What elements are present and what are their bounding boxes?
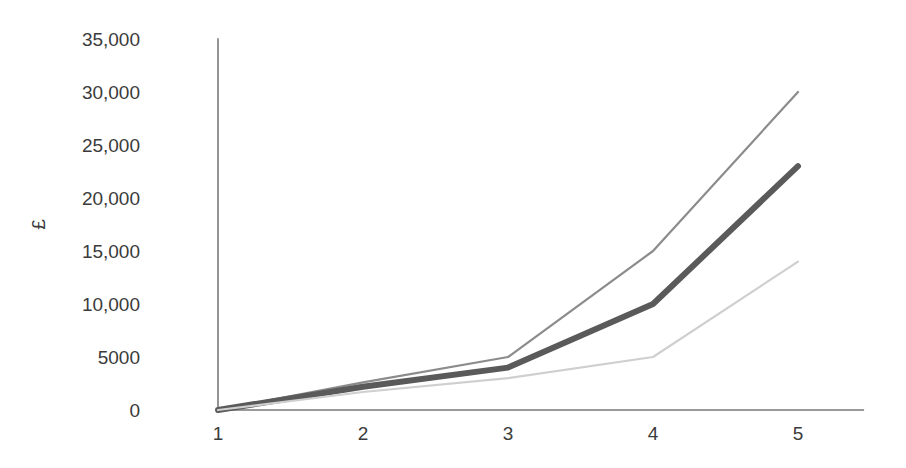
x-tick-label: 1 — [213, 423, 224, 444]
y-axis-title-label: £ — [28, 219, 49, 230]
y-tick-label: 30,000 — [82, 82, 140, 103]
x-axis-tick-labels: 12345 — [213, 423, 804, 444]
line-chart-plot: 0500010,00015,00020,00025,00030,00035,00… — [0, 0, 906, 468]
y-axis-title: £ — [28, 219, 49, 230]
x-tick-label: 3 — [503, 423, 514, 444]
data-series-group — [218, 92, 798, 410]
chart-figure: 0500010,00015,00020,00025,00030,00035,00… — [0, 0, 906, 468]
y-tick-label: 35,000 — [82, 29, 140, 50]
x-tick-label: 4 — [648, 423, 659, 444]
y-tick-label: 20,000 — [82, 188, 140, 209]
series-line-lower — [218, 262, 798, 410]
y-tick-label: 15,000 — [82, 241, 140, 262]
x-tick-label: 5 — [793, 423, 804, 444]
y-tick-label: 25,000 — [82, 135, 140, 156]
x-tick-label: 2 — [358, 423, 369, 444]
y-axis-tick-labels: 0500010,00015,00020,00025,00030,00035,00… — [82, 29, 140, 421]
y-tick-label: 5000 — [98, 347, 140, 368]
series-line-middle — [218, 166, 798, 410]
y-tick-label: 10,000 — [82, 294, 140, 315]
y-tick-label: 0 — [129, 400, 140, 421]
